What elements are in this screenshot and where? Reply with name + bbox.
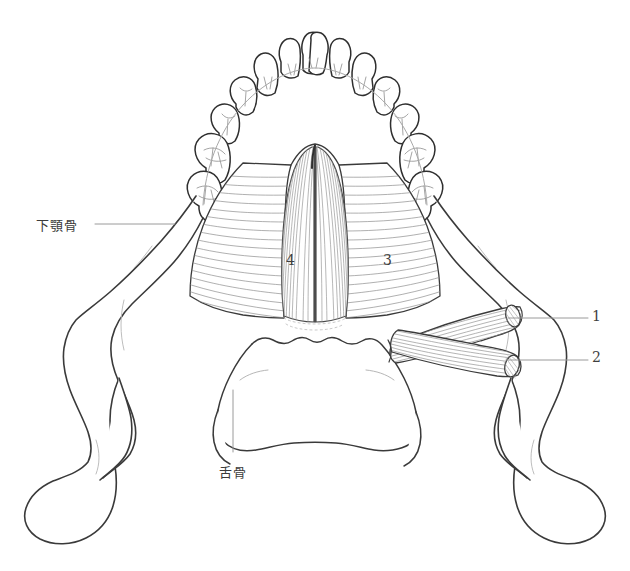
label-callout-2: 2 xyxy=(592,349,601,365)
label-callout-1: 1 xyxy=(592,308,601,324)
label-hyoid: 舌骨 xyxy=(219,462,247,481)
label-callout-4: 4 xyxy=(286,252,295,268)
anatomy-illustration xyxy=(0,0,630,571)
hyoid-bone xyxy=(213,337,421,466)
label-callout-3: 3 xyxy=(383,252,392,268)
label-mandible: 下顎骨 xyxy=(36,215,78,234)
